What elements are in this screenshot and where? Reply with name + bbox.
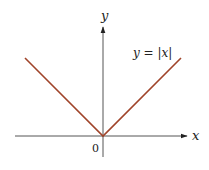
y-axis-label: y bbox=[100, 8, 109, 23]
function-annotation: y = |x| bbox=[132, 46, 172, 60]
origin-label: 0 bbox=[92, 142, 99, 155]
x-axis-label: x bbox=[192, 128, 200, 143]
abs-value-chart: x y 0 y = |x| bbox=[0, 0, 209, 170]
